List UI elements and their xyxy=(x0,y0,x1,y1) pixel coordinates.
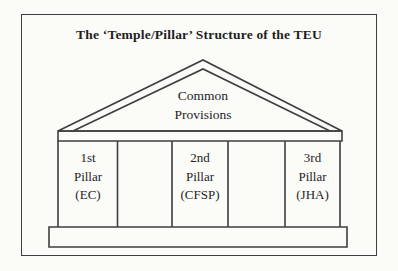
pillar-1-ordinal: 1st xyxy=(59,149,117,168)
pillar-3-label: 3rd Pillar (JHA) xyxy=(285,149,340,205)
pillar-1-word: Pillar xyxy=(59,168,117,187)
entablature-beam xyxy=(58,131,342,141)
figure-canvas: The ‘Temple/Pillar’ Structure of the TEU… xyxy=(0,0,398,271)
pillar-3-acronym: (JHA) xyxy=(285,186,340,205)
common-provisions-line1: Common xyxy=(158,86,248,105)
pillar-3-word: Pillar xyxy=(285,168,340,187)
common-provisions-label: Common Provisions xyxy=(158,86,248,124)
common-provisions-line2: Provisions xyxy=(158,105,248,124)
base-plinth xyxy=(49,227,347,247)
temple-diagram xyxy=(0,0,398,271)
pillar-2-acronym: (CFSP) xyxy=(172,186,228,205)
pillar-3-ordinal: 3rd xyxy=(285,149,340,168)
pillar-2-label: 2nd Pillar (CFSP) xyxy=(172,149,228,205)
pillar-1-label: 1st Pillar (EC) xyxy=(59,149,117,205)
pillar-2-word: Pillar xyxy=(172,168,228,187)
pillar-2-ordinal: 2nd xyxy=(172,149,228,168)
pillar-1-acronym: (EC) xyxy=(59,186,117,205)
